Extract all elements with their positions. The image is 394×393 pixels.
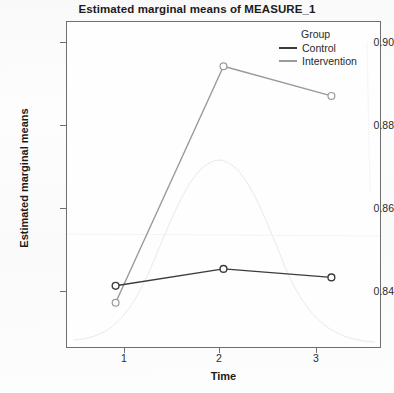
series-layer bbox=[67, 22, 380, 347]
ytick-label-090: 0.90 bbox=[352, 36, 394, 48]
chart-title: Estimated marginal means of MEASURE_1 bbox=[0, 3, 394, 15]
data-point-control-1 bbox=[112, 282, 119, 289]
xtick-label-1: 1 bbox=[109, 352, 139, 364]
legend-label-intervention: Intervention bbox=[302, 55, 357, 67]
y-axis-label: Estimated marginal means bbox=[18, 68, 30, 288]
data-point-control-2 bbox=[220, 266, 227, 273]
legend-swatch-control bbox=[279, 47, 297, 49]
legend-item-intervention[interactable]: Intervention bbox=[279, 55, 379, 67]
ytick-mark-088 bbox=[60, 125, 66, 126]
xtick-label-3: 3 bbox=[301, 352, 331, 364]
ytick-mark-090 bbox=[60, 42, 66, 43]
ytick-label-086: 0.86 bbox=[352, 202, 394, 214]
data-point-intervention-1 bbox=[112, 299, 119, 306]
xtick-label-2: 2 bbox=[204, 352, 234, 364]
x-axis-label: Time bbox=[66, 370, 381, 382]
ytick-label-088: 0.88 bbox=[352, 119, 394, 131]
data-point-intervention-2 bbox=[220, 63, 227, 70]
ytick-mark-086 bbox=[60, 208, 66, 209]
legend: Group Control Intervention bbox=[279, 28, 379, 68]
legend-swatch-intervention bbox=[279, 60, 297, 62]
ytick-label-084: 0.84 bbox=[352, 285, 394, 297]
plot-area: Group Control Intervention bbox=[66, 21, 381, 348]
legend-label-control: Control bbox=[302, 42, 336, 54]
data-point-intervention-3 bbox=[328, 93, 335, 100]
data-point-control-3 bbox=[328, 274, 335, 281]
ytick-mark-084 bbox=[60, 291, 66, 292]
